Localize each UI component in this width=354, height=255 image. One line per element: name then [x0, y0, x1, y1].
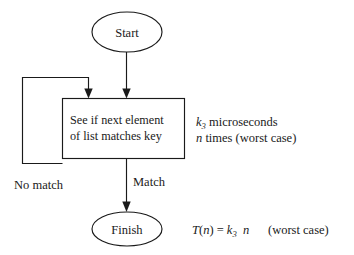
- formula-space-4: [249, 223, 268, 237]
- node-start[interactable]: Start: [92, 12, 162, 52]
- node-process[interactable]: See if next element of list matches key: [63, 99, 185, 159]
- edge-process-to-finish-arrowhead: [122, 202, 130, 213]
- edge-process-to-finish: [122, 159, 130, 213]
- annotation-formula: T(n) = k3 n (worst case): [192, 223, 329, 239]
- edge-start-to-process: [122, 52, 130, 99]
- annotation-cost-times: times (worst case): [205, 131, 296, 145]
- edge-no-match-loop-arrowhead: [84, 89, 92, 99]
- start-label: Start: [115, 26, 139, 40]
- annotation-cost-line2: n times (worst case): [196, 131, 296, 145]
- formula-equals: =: [217, 223, 224, 237]
- process-text-line1: See if next element: [70, 113, 164, 127]
- process-text-line2: of list matches key: [70, 129, 163, 143]
- annotation-formula-text: T(n) = k3 n (worst case): [192, 223, 329, 239]
- annotation-cost-line1: k3 microseconds: [196, 115, 278, 131]
- annotation-cost: k3 microseconds n times (worst case): [196, 115, 296, 145]
- edge-label-no-match: No match: [14, 178, 64, 192]
- annotation-cost-unit-text: microseconds: [209, 115, 278, 129]
- formula-worst-case-note: (worst case): [268, 223, 329, 237]
- finish-label: Finish: [111, 223, 143, 237]
- flowchart-canvas: Start See if next element of list matche…: [0, 0, 354, 255]
- edge-start-to-process-arrowhead: [122, 89, 130, 99]
- flowchart-diagram: Start See if next element of list matche…: [0, 0, 354, 255]
- edge-label-match: Match: [133, 175, 166, 189]
- node-finish[interactable]: Finish: [92, 212, 162, 246]
